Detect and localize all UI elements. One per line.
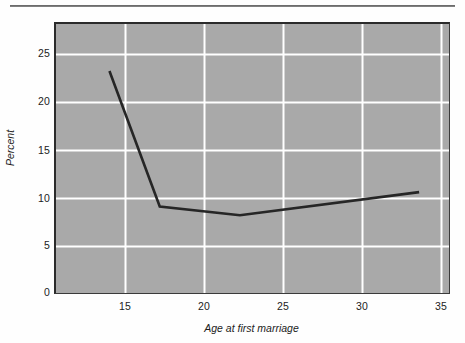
x-tick-label-30: 30 [342,300,382,312]
x-axis-tick-labels: 15 20 25 30 35 [0,300,465,316]
chart-figure: 25 20 15 10 5 0 Percent [0,0,465,343]
y-tick-label-5: 5 [10,240,50,250]
y-tick-label-10: 10 [10,193,50,203]
plot-region [54,22,449,293]
x-tick-label-20: 20 [184,300,224,312]
x-axis-title: Age at first marriage [55,322,448,334]
y-tick-label-20: 20 [10,96,50,106]
y-tick-label-0: 0 [10,287,50,297]
top-divider-rule [10,5,455,7]
y-axis-title: Percent [4,118,16,178]
x-tick-label-35: 35 [421,300,461,312]
plot-canvas [56,24,449,293]
x-tick-label-25: 25 [263,300,303,312]
y-tick-label-25: 25 [10,48,50,58]
data-series-line [109,71,419,215]
vertical-gridlines [126,24,442,293]
y-tick-label-15: 15 [10,145,50,155]
x-tick-label-15: 15 [105,300,145,312]
